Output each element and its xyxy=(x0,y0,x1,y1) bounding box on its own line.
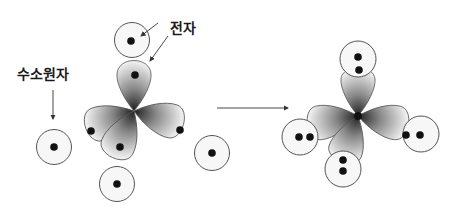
electron-dot xyxy=(416,131,424,139)
diagram-canvas xyxy=(0,0,457,213)
electron-dot xyxy=(87,127,95,135)
hydrogen-atom-label: 수소원자 xyxy=(17,63,69,83)
electron-dot xyxy=(354,53,362,61)
electron-dot xyxy=(402,131,410,139)
electron-label: 전자 xyxy=(170,17,196,37)
orbital-lobe-top xyxy=(117,61,151,112)
electron-dot xyxy=(339,167,347,175)
electron-dot xyxy=(295,133,303,141)
electron-dot xyxy=(176,126,184,134)
carbon-nucleus xyxy=(354,112,362,120)
electron-label-arrow-2 xyxy=(150,36,168,61)
methane-orbitals-after xyxy=(305,68,412,168)
bonded-hydrogen-right xyxy=(402,116,439,152)
electron-dot xyxy=(208,149,216,157)
electron-dot xyxy=(113,180,121,188)
hydrogen-atom-top xyxy=(115,23,150,58)
electron-dot xyxy=(127,37,135,45)
electron-dot xyxy=(339,156,347,164)
electron-dot xyxy=(131,71,139,79)
electron-dot xyxy=(50,143,58,151)
carbon-orbitals-before xyxy=(80,61,188,165)
hydrogen-atom-bottom xyxy=(100,167,135,202)
electron-dot xyxy=(355,66,363,74)
hydrogen-atom-left xyxy=(37,130,72,165)
bonded-hydrogen-top xyxy=(340,41,376,77)
bonded-hydrogen-left xyxy=(282,119,318,155)
hydrogen-atom-right xyxy=(195,136,230,171)
electron-dot xyxy=(306,133,314,141)
electron-dot xyxy=(116,143,124,151)
bonded-hydrogen-bottom xyxy=(325,151,361,187)
